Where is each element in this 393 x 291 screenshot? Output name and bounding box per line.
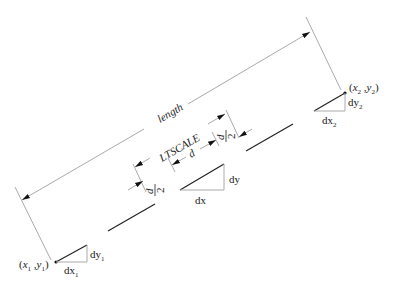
point-1-label: (x1 ,y1)	[19, 258, 49, 273]
d-dimension-line-left	[172, 157, 186, 165]
p1-triangle-hypotenuse	[56, 245, 87, 262]
linetype-diagram: length LTSCALE d d 2 d 2 dy dx dy1 dx1 (…	[0, 0, 393, 291]
length-dimension-line-right	[188, 32, 310, 104]
slope-triangle-hypotenuse	[180, 164, 224, 190]
dx2-label: dx2	[322, 114, 337, 129]
length-label: length	[155, 100, 185, 124]
dy2-label: dy2	[348, 96, 363, 111]
d-half-right-arrow	[239, 129, 252, 137]
d-half-right-fraction: d 2	[214, 130, 237, 142]
ltscale-dimension-line-right	[208, 114, 225, 124]
dash-segment-right	[246, 124, 293, 151]
d-half-left-fraction: d 2	[143, 184, 166, 196]
d-half-left-arrow	[128, 181, 143, 190]
extension-line-left	[15, 187, 51, 260]
dy1-label: dy1	[90, 248, 105, 263]
dx1-label: dx1	[64, 264, 79, 279]
ltscale-extension-left	[133, 164, 146, 192]
dx-label: dx	[195, 194, 207, 206]
point-2-label: (x2 ,y2)	[349, 81, 379, 96]
d-extension-left	[168, 158, 175, 172]
ltscale-label: LTSCALE	[156, 131, 202, 164]
d-label: d	[186, 146, 197, 159]
ltscale-dimension-line-left	[135, 158, 150, 167]
dash-segment-left	[108, 204, 155, 231]
dy-label: dy	[229, 173, 241, 185]
p2-triangle-hypotenuse	[314, 93, 345, 111]
d-half-right-denominator: 2	[225, 134, 237, 140]
d-dimension-line-right	[200, 140, 216, 149]
length-dimension-line-left	[22, 129, 144, 200]
d-half-left-denominator: 2	[154, 188, 166, 194]
extension-line-right	[306, 17, 341, 90]
